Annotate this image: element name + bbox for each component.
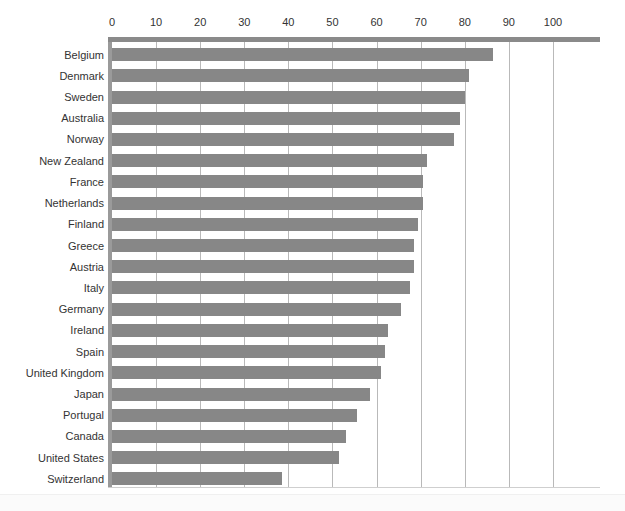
x-axis-tick-labels: 0102030405060708090100	[112, 16, 575, 32]
bar	[112, 69, 469, 82]
y-tick-label: Norway	[0, 133, 104, 145]
y-tick-label: United Kingdom	[0, 367, 104, 379]
y-tick-label: Denmark	[0, 70, 104, 82]
bar	[112, 260, 414, 273]
y-tick-label: Belgium	[0, 49, 104, 61]
y-tick-label: Japan	[0, 388, 104, 400]
x-tick-label: 70	[415, 16, 427, 28]
bar	[112, 218, 418, 231]
y-axis-category-labels: BelgiumDenmarkSwedenAustraliaNorwayNew Z…	[0, 44, 104, 488]
bar	[112, 133, 454, 146]
x-tick-label: 40	[282, 16, 294, 28]
bar	[112, 175, 423, 188]
plot-area	[112, 37, 575, 488]
bar	[112, 388, 370, 401]
x-tick-label: 30	[238, 16, 250, 28]
x-tick-label: 20	[194, 16, 206, 28]
x-tick-label: 80	[459, 16, 471, 28]
x-axis-bottom-rule	[108, 487, 600, 488]
bar	[112, 197, 423, 210]
y-tick-label: Austria	[0, 261, 104, 273]
y-tick-label: Canada	[0, 430, 104, 442]
x-tick-label: 10	[150, 16, 162, 28]
cut-off-caption-remnant	[112, 0, 575, 7]
bar	[112, 281, 410, 294]
y-tick-label: Portugal	[0, 409, 104, 421]
x-tick-label: 50	[326, 16, 338, 28]
y-tick-label: France	[0, 176, 104, 188]
x-tick-label: 0	[109, 16, 115, 28]
bar	[112, 409, 357, 422]
bar	[112, 366, 381, 379]
y-tick-label: Italy	[0, 282, 104, 294]
bar	[112, 154, 427, 167]
x-tick-label: 90	[503, 16, 515, 28]
y-tick-label: United States	[0, 452, 104, 464]
x-tick-label: 60	[370, 16, 382, 28]
y-tick-label: Netherlands	[0, 197, 104, 209]
bar	[112, 345, 385, 358]
bar-series	[112, 37, 575, 488]
y-tick-label: Australia	[0, 112, 104, 124]
bar	[112, 430, 346, 443]
y-tick-label: Greece	[0, 240, 104, 252]
bar	[112, 451, 339, 464]
y-tick-label: Germany	[0, 303, 104, 315]
x-tick-label: 100	[544, 16, 562, 28]
y-tick-label: Switzerland	[0, 473, 104, 485]
bar	[112, 324, 388, 337]
bar	[112, 48, 493, 61]
y-tick-label: Finland	[0, 218, 104, 230]
bar	[112, 472, 282, 485]
y-tick-label: Ireland	[0, 324, 104, 336]
bar	[112, 239, 414, 252]
y-tick-label: Sweden	[0, 91, 104, 103]
bar	[112, 303, 401, 316]
y-tick-label: New Zealand	[0, 155, 104, 167]
bar	[112, 91, 465, 104]
y-tick-label: Spain	[0, 346, 104, 358]
bar	[112, 112, 460, 125]
footer-band	[0, 494, 625, 511]
